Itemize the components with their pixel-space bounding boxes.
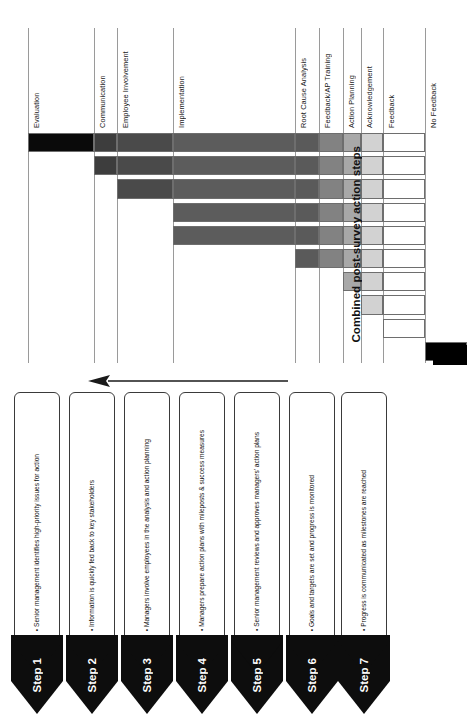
bar-segment [117,133,173,152]
bar-segment [361,272,383,291]
bar-segment [173,156,295,175]
bar-segment [319,179,343,198]
bar-segment [383,203,425,222]
column-label-communication: Communication [98,20,107,128]
bar-segment [94,133,117,152]
step-description: • Information is quickly fed back to key… [88,480,95,631]
step-description: • Goals and targets are set and progress… [308,475,315,631]
bar-segment [361,156,383,175]
column-label-feedback: Feedback [387,20,396,128]
chart-plot-area [28,131,342,363]
bar-segment [383,156,425,175]
bar-segment [117,179,173,198]
bar-segment [361,249,383,268]
bar-segment [383,179,425,198]
chevron-icon [11,635,63,714]
gridline-no-feedback [425,28,426,363]
bar-segment [94,156,117,175]
bar-segment [319,249,343,268]
step-4[interactable]: • Managers prepare action plans with mil… [179,392,225,714]
step-7[interactable]: • Progress is communicated as milestones… [341,392,387,714]
step-description: • Progress is communicated as milestones… [360,470,367,631]
column-label-feedback-ap-training: Feedback/AP Training [323,20,332,128]
process-steps: • Senior management identifies high-prio… [0,392,410,721]
bar-segment [319,133,343,152]
bar-segment [383,226,425,245]
step-description: • Senior management identifies high-prio… [33,454,40,631]
bar-segment [383,319,425,338]
step-description: • Managers involve employees in the anal… [143,439,150,631]
bar-segment [295,156,319,175]
bar-segment [383,295,425,314]
column-label-acknowledgement: Acknowledgement [365,20,374,128]
bar-segment [295,226,319,245]
step-5[interactable]: • Senior management reviews and approves… [234,392,280,714]
chevron-icon [176,635,228,714]
bar-segment [295,249,319,268]
bar-segment [117,156,173,175]
bar-segment [319,203,343,222]
step-bullet-container: • Senior management reviews and approves… [234,392,280,637]
step-2[interactable]: • Information is quickly fed back to key… [69,392,115,714]
bar-segment [319,156,343,175]
bar-segment [28,133,94,152]
step-bullet-container: • Information is quickly fed back to key… [69,392,115,637]
column-label-employee-involvement: Employee Involvement [121,20,130,128]
chevron-icon [121,635,173,714]
column-label-evaluation: Evaluation [32,20,41,128]
no-feedback-bar [433,345,467,365]
step-description: • Senior management reviews and approves… [253,432,260,631]
bar-segment [173,133,295,152]
bar-segment [295,179,319,198]
bar-segment [383,272,425,291]
column-label-implementation: Implementation [177,20,186,128]
step-1[interactable]: • Senior management identifies high-prio… [14,392,60,714]
combined-action-steps-chart: EvaluationCommunicationEmployee Involvem… [0,0,410,378]
step-6[interactable]: • Goals and targets are set and progress… [289,392,335,714]
chevron-icon [66,635,118,714]
chevron-icon [231,635,283,714]
bar-segment [361,295,383,314]
bar-segment [173,179,295,198]
chart-caption: Combined post-survey action steps [349,146,362,343]
step-bullet-container: • Progress is communicated as milestones… [341,392,387,637]
step-bullet-container: • Goals and targets are set and progress… [289,392,335,637]
bar-segment [295,133,319,152]
bar-segment [361,203,383,222]
chevron-icon [286,635,338,714]
bar-segment [173,226,295,245]
bar-segment [319,226,343,245]
bar-segment [295,203,319,222]
bar-segment [173,203,295,222]
step-bullet-container: • Managers involve employees in the anal… [124,392,170,637]
bar-segment [383,249,425,268]
step-bullet-container: • Senior management identifies high-prio… [14,392,60,637]
process-direction-arrow [88,374,288,388]
bar-segment [361,226,383,245]
chevron-icon [338,635,390,714]
step-3[interactable]: • Managers involve employees in the anal… [124,392,170,714]
bar-segment [383,133,425,152]
column-label-root-cause-analysis: Root Cause Analysis [299,20,308,128]
bar-segment [361,179,383,198]
step-description: • Managers prepare action plans with mil… [198,430,205,631]
step-bullet-container: • Managers prepare action plans with mil… [179,392,225,637]
column-label-no-feedback: No Feedback [429,20,438,128]
bar-segment [361,133,383,152]
column-label-action-planning: Action Planning [347,20,356,128]
